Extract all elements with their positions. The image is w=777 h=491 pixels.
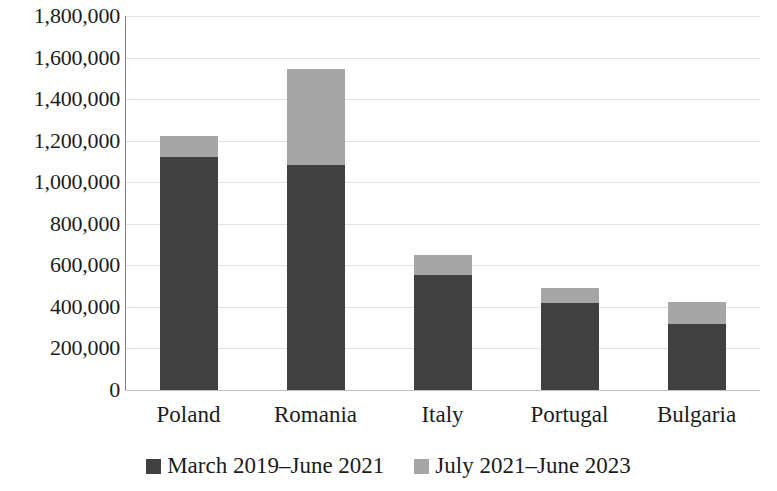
category-label-romania: Romania (252, 400, 379, 430)
category-label-italy: Italy (379, 400, 506, 430)
y-axis-tick-labels: 1,800,0001,600,0001,400,0001,200,0001,00… (0, 0, 120, 491)
bar-romania (287, 69, 345, 390)
gridline (125, 16, 760, 17)
bar-segment-july-2021-june-2023 (287, 69, 345, 165)
y-axis-tick-label: 1,600,000 (2, 47, 120, 69)
gridline (125, 58, 760, 59)
bar-segment-march-2019-june-2021 (160, 157, 218, 390)
y-axis-line (125, 16, 126, 391)
bar-portugal (541, 288, 599, 390)
stacked-bar-chart: 1,800,0001,600,0001,400,0001,200,0001,00… (0, 0, 777, 491)
bar-poland (160, 136, 218, 390)
gridline (125, 182, 760, 183)
legend-label: March 2019–June 2021 (167, 452, 384, 480)
y-axis-tick-label: 800,000 (2, 213, 120, 235)
category-label-poland: Poland (125, 400, 252, 430)
y-axis-tick-label: 600,000 (2, 254, 120, 276)
y-axis-tick-label: 200,000 (2, 337, 120, 359)
legend-item-1: March 2019–June 2021 (146, 452, 384, 480)
chart-legend: March 2019–June 2021July 2021–June 2023 (0, 452, 777, 480)
gridline (125, 141, 760, 142)
legend-item-2: July 2021–June 2023 (414, 452, 631, 480)
y-axis-tick-label: 1,800,000 (2, 5, 120, 27)
legend-swatch-icon (414, 459, 429, 474)
bar-segment-march-2019-june-2021 (668, 324, 726, 390)
bar-segment-july-2021-june-2023 (668, 302, 726, 324)
category-label-bulgaria: Bulgaria (633, 400, 760, 430)
bar-segment-july-2021-june-2023 (160, 136, 218, 157)
y-axis-tick-label: 400,000 (2, 296, 120, 318)
bar-italy (414, 255, 472, 390)
bar-segment-march-2019-june-2021 (287, 165, 345, 390)
gridline (125, 99, 760, 100)
y-axis-tick-label: 1,400,000 (2, 88, 120, 110)
bar-segment-july-2021-june-2023 (414, 255, 472, 275)
gridline (125, 224, 760, 225)
legend-swatch-icon (146, 459, 161, 474)
category-label-portugal: Portugal (506, 400, 633, 430)
y-axis-tick-label: 1,200,000 (2, 130, 120, 152)
bar-segment-march-2019-june-2021 (541, 303, 599, 390)
bar-segment-july-2021-june-2023 (541, 288, 599, 303)
legend-label: July 2021–June 2023 (435, 452, 631, 480)
y-axis-tick-label: 0 (2, 379, 120, 401)
bar-segment-march-2019-june-2021 (414, 275, 472, 390)
x-axis-baseline (125, 390, 760, 391)
bar-bulgaria (668, 302, 726, 390)
y-axis-tick-label: 1,000,000 (2, 171, 120, 193)
